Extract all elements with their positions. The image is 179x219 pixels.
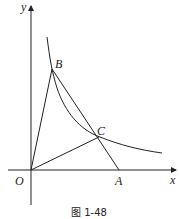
point-C-label: C: [97, 124, 106, 138]
origin-label: O: [15, 174, 24, 188]
coordinate-diagram: y x O B C A 图 1-48: [0, 0, 179, 219]
figure-caption: 图 1-48: [71, 207, 107, 218]
point-A-label: A: [114, 174, 123, 188]
x-axis-label: x: [169, 173, 176, 187]
point-B-label: B: [55, 57, 63, 71]
y-axis-label: y: [20, 0, 27, 14]
segment-OC: [31, 137, 99, 170]
segment-OB: [31, 69, 52, 170]
